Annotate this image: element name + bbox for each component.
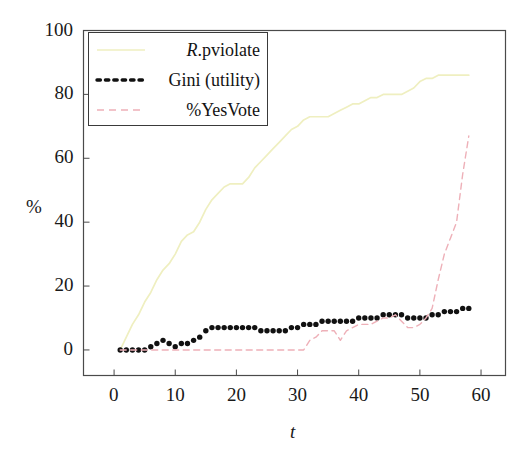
- legend-label-yesvote: %YesVote: [147, 100, 269, 121]
- data-point: [368, 315, 373, 320]
- data-point: [264, 328, 269, 333]
- data-point: [191, 338, 196, 343]
- data-point: [173, 344, 178, 349]
- data-point: [380, 312, 385, 317]
- series-1-points: [118, 306, 472, 353]
- data-point: [319, 318, 324, 323]
- data-point: [234, 325, 239, 330]
- data-point: [258, 328, 263, 333]
- y-tick-label: 100: [45, 19, 74, 41]
- solid-line-sample: [95, 40, 147, 60]
- data-point: [252, 325, 257, 330]
- data-point: [197, 334, 202, 339]
- y-tick-label: 60: [55, 146, 74, 168]
- series-2-line: [120, 136, 469, 350]
- data-point: [301, 322, 306, 327]
- data-point: [411, 315, 416, 320]
- data-point: [166, 341, 171, 346]
- legend-label-rest: Gini (utility): [169, 70, 261, 90]
- legend-label-rpviolate: R.pviolate: [147, 40, 269, 61]
- chart-figure: 020406080100 0102030405060 % t R.pviolat…: [0, 0, 527, 458]
- data-point: [466, 306, 471, 311]
- data-point: [374, 315, 379, 320]
- x-tick-label: 30: [288, 384, 307, 406]
- data-point: [325, 318, 330, 323]
- data-point: [240, 325, 245, 330]
- x-tick-label: 10: [166, 384, 185, 406]
- data-point: [160, 338, 165, 343]
- data-point: [270, 328, 275, 333]
- data-point: [362, 315, 367, 320]
- data-point: [344, 318, 349, 323]
- data-point: [185, 341, 190, 346]
- x-tick-label: 0: [109, 384, 119, 406]
- data-point: [313, 322, 318, 327]
- data-point: [289, 325, 294, 330]
- legend-entry-rpviolate: R.pviolate: [89, 35, 269, 65]
- data-point: [179, 341, 184, 346]
- data-point: [209, 325, 214, 330]
- x-tick-label: 50: [410, 384, 429, 406]
- y-tick-label: 80: [55, 82, 74, 104]
- x-tick-label: 40: [349, 384, 368, 406]
- data-point: [454, 309, 459, 314]
- data-point: [203, 328, 208, 333]
- legend-label-rest: %YesVote: [186, 100, 260, 120]
- data-point: [221, 325, 226, 330]
- data-point: [277, 328, 282, 333]
- data-point: [399, 312, 404, 317]
- data-point: [283, 328, 288, 333]
- data-point: [429, 312, 434, 317]
- legend-label-rest: .pviolate: [198, 40, 260, 60]
- data-point: [356, 315, 361, 320]
- data-point: [154, 341, 159, 346]
- x-tick-label: 60: [472, 384, 491, 406]
- legend-label-gini: Gini (utility): [147, 70, 269, 91]
- data-point: [148, 344, 153, 349]
- y-axis-label: %: [26, 196, 42, 218]
- data-point: [436, 312, 441, 317]
- y-tick-label: 20: [55, 274, 74, 296]
- dotted-line-sample: [95, 70, 147, 90]
- data-point: [350, 318, 355, 323]
- x-axis-label: t: [290, 421, 295, 443]
- data-point: [417, 315, 422, 320]
- legend-entry-gini: Gini (utility): [89, 65, 269, 95]
- data-point: [405, 315, 410, 320]
- data-point: [442, 309, 447, 314]
- y-tick-label: 0: [64, 338, 74, 360]
- y-tick-label: 40: [55, 210, 74, 232]
- data-point: [295, 325, 300, 330]
- data-point: [338, 318, 343, 323]
- data-point: [448, 309, 453, 314]
- legend-entry-yesvote: %YesVote: [89, 95, 269, 125]
- x-tick-label: 20: [227, 384, 246, 406]
- data-point: [215, 325, 220, 330]
- legend: R.pviolate Gini (utility) %YesVote: [88, 32, 268, 126]
- dashed-line-sample: [95, 100, 147, 120]
- data-point: [460, 306, 465, 311]
- legend-italic-prefix: R: [187, 40, 198, 60]
- data-point: [332, 318, 337, 323]
- data-point: [307, 322, 312, 327]
- data-point: [228, 325, 233, 330]
- data-point: [246, 325, 251, 330]
